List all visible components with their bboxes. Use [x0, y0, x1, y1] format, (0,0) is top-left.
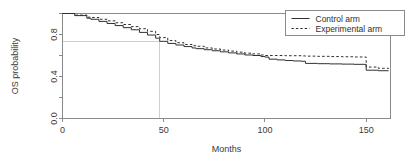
x-tick-label-2: 100	[257, 125, 272, 135]
reference-lines	[63, 42, 160, 119]
x-tick-label-1: 50	[159, 125, 169, 135]
legend: Control arm Experimental arm	[286, 11, 405, 36]
legend-label-experimental-arm: Experimental arm	[316, 24, 383, 34]
x-tick-label-3: 150	[359, 125, 374, 135]
y-tick-label-2: 0.8	[49, 28, 59, 41]
x-tick-label-0: 0	[60, 125, 65, 135]
y-axis-title: OS probability	[10, 37, 20, 94]
x-axis-title: Months	[212, 144, 242, 154]
plot-canvas: 0.0 0.4 0.8 0 50 100 150 Months OS proba…	[0, 0, 411, 164]
legend-label-control-arm: Control arm	[316, 14, 360, 24]
x-axis-tick-labels: 0 50 100 150	[60, 125, 374, 135]
y-tick-label-1: 0.4	[49, 70, 59, 83]
y-axis-tick-labels: 0.0 0.4 0.8	[49, 28, 59, 125]
x-axis-ticks	[63, 119, 367, 123]
y-tick-label-0: 0.0	[49, 112, 59, 125]
km-survival-chart: 0.0 0.4 0.8 0 50 100 150 Months OS proba…	[0, 0, 411, 164]
y-axis-ticks	[59, 14, 63, 119]
